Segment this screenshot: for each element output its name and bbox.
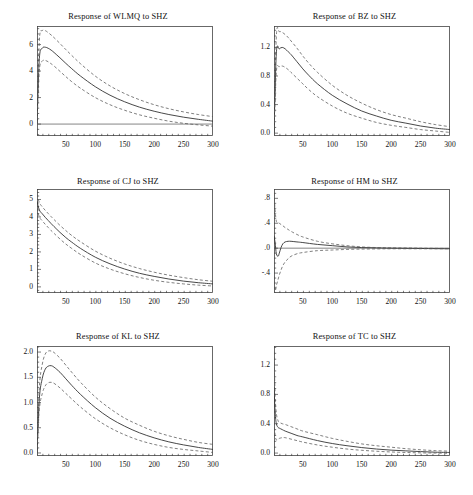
x-tick-label: 100 bbox=[81, 140, 109, 149]
x-tick-label: 250 bbox=[170, 140, 198, 149]
y-tick-label: 4 bbox=[3, 66, 33, 75]
plot-area bbox=[37, 189, 213, 293]
y-tick-label: 6 bbox=[3, 40, 33, 49]
x-tick-label: 50 bbox=[289, 140, 317, 149]
plot-area bbox=[274, 189, 450, 293]
x-tick-label: 200 bbox=[377, 460, 405, 469]
series-upper-band bbox=[37, 30, 213, 124]
y-tick-label: 0.4 bbox=[240, 419, 270, 428]
panel-title: Response of TC to SHZ bbox=[236, 332, 473, 341]
x-tick-label: 300 bbox=[436, 140, 464, 149]
series-lower-band bbox=[37, 382, 213, 453]
x-tick-label: 150 bbox=[111, 460, 139, 469]
x-tick-label: 250 bbox=[407, 140, 435, 149]
x-tick-label: 50 bbox=[52, 140, 80, 149]
plot-area bbox=[274, 346, 450, 456]
x-tick-label: 50 bbox=[52, 460, 80, 469]
series-lower-band bbox=[274, 65, 450, 133]
y-tick-label: 0.0 bbox=[240, 128, 270, 137]
irf-panel-kl: Response of KL to SHZ0.00.51.01.52.05010… bbox=[0, 320, 236, 495]
y-tick-label: 0 bbox=[3, 282, 33, 291]
y-tick-label: 0.8 bbox=[240, 389, 270, 398]
y-tick-label: 0 bbox=[3, 119, 33, 128]
y-tick-label: 1.5 bbox=[3, 372, 33, 381]
series-lower-band bbox=[37, 60, 213, 126]
y-tick-label: 1 bbox=[3, 264, 33, 273]
panel-title: Response of HM to SHZ bbox=[236, 177, 473, 186]
series-lower-band bbox=[37, 208, 213, 286]
plot-area bbox=[37, 346, 213, 456]
x-tick-label: 100 bbox=[318, 140, 346, 149]
y-tick-label: -.4 bbox=[240, 268, 270, 277]
y-tick-label: 1.2 bbox=[240, 42, 270, 51]
x-tick-label: 250 bbox=[170, 460, 198, 469]
series-upper-band bbox=[37, 351, 213, 453]
x-tick-label: 300 bbox=[199, 460, 227, 469]
plot-area bbox=[37, 26, 213, 136]
x-tick-label: 100 bbox=[318, 460, 346, 469]
series-lower-band bbox=[274, 249, 450, 291]
x-tick-label: 150 bbox=[348, 460, 376, 469]
x-tick-label: 100 bbox=[81, 460, 109, 469]
x-tick-label: 150 bbox=[111, 297, 139, 306]
x-tick-label: 300 bbox=[436, 460, 464, 469]
x-tick-label: 50 bbox=[289, 460, 317, 469]
x-tick-label: 250 bbox=[170, 297, 198, 306]
x-tick-label: 300 bbox=[436, 297, 464, 306]
x-tick-label: 200 bbox=[377, 297, 405, 306]
x-tick-label: 50 bbox=[289, 297, 317, 306]
series-upper-band bbox=[274, 193, 450, 248]
series-upper-band bbox=[37, 194, 213, 281]
x-tick-label: 100 bbox=[318, 297, 346, 306]
y-tick-label: 5 bbox=[3, 194, 33, 203]
irf-panel-bz: Response of BZ to SHZ0.00.40.81.25010015… bbox=[236, 0, 473, 165]
irf-panel-grid: Response of WLMQ to SHZ02465010015020025… bbox=[0, 0, 473, 495]
irf-panel-cj: Response of CJ to SHZ0123455010015020025… bbox=[0, 165, 236, 320]
x-tick-label: 200 bbox=[140, 460, 168, 469]
plot-area bbox=[274, 26, 450, 136]
y-tick-label: 0.4 bbox=[240, 100, 270, 109]
y-tick-label: .8 bbox=[240, 193, 270, 202]
x-tick-label: 200 bbox=[140, 140, 168, 149]
series-lower-band bbox=[274, 422, 450, 453]
irf-panel-hm: Response of HM to SHZ-.4.0.4.85010015020… bbox=[236, 165, 473, 320]
x-tick-label: 150 bbox=[111, 140, 139, 149]
irf-panel-tc: Response of TC to SHZ0.00.40.81.25010015… bbox=[236, 320, 473, 495]
y-tick-label: 0.0 bbox=[3, 448, 33, 457]
panel-title: Response of WLMQ to SHZ bbox=[0, 12, 236, 21]
y-tick-label: .4 bbox=[240, 218, 270, 227]
y-tick-label: 2 bbox=[3, 247, 33, 256]
x-tick-label: 250 bbox=[407, 460, 435, 469]
panel-title: Response of CJ to SHZ bbox=[0, 177, 236, 186]
irf-panel-wlmq: Response of WLMQ to SHZ02465010015020025… bbox=[0, 0, 236, 165]
y-tick-label: .0 bbox=[240, 243, 270, 252]
panel-title: Response of KL to SHZ bbox=[0, 332, 236, 341]
series-response bbox=[274, 387, 450, 452]
x-tick-label: 200 bbox=[377, 140, 405, 149]
y-tick-label: 1.2 bbox=[240, 360, 270, 369]
x-tick-label: 100 bbox=[81, 297, 109, 306]
y-tick-label: 0.8 bbox=[240, 71, 270, 80]
y-tick-label: 0.0 bbox=[240, 448, 270, 457]
panel-title: Response of BZ to SHZ bbox=[236, 12, 473, 21]
x-tick-label: 250 bbox=[407, 297, 435, 306]
series-response bbox=[274, 46, 450, 133]
y-tick-label: 2 bbox=[3, 93, 33, 102]
series-upper-band bbox=[274, 27, 450, 133]
y-tick-label: 0.5 bbox=[3, 423, 33, 432]
y-tick-label: 1.0 bbox=[3, 398, 33, 407]
y-tick-label: 3 bbox=[3, 229, 33, 238]
x-tick-label: 300 bbox=[199, 140, 227, 149]
x-tick-label: 200 bbox=[140, 297, 168, 306]
y-tick-label: 4 bbox=[3, 212, 33, 221]
x-tick-label: 150 bbox=[348, 297, 376, 306]
x-tick-label: 300 bbox=[199, 297, 227, 306]
y-tick-label: 2.0 bbox=[3, 347, 33, 356]
series-response bbox=[37, 201, 213, 284]
x-tick-label: 50 bbox=[52, 297, 80, 306]
x-tick-label: 150 bbox=[348, 140, 376, 149]
